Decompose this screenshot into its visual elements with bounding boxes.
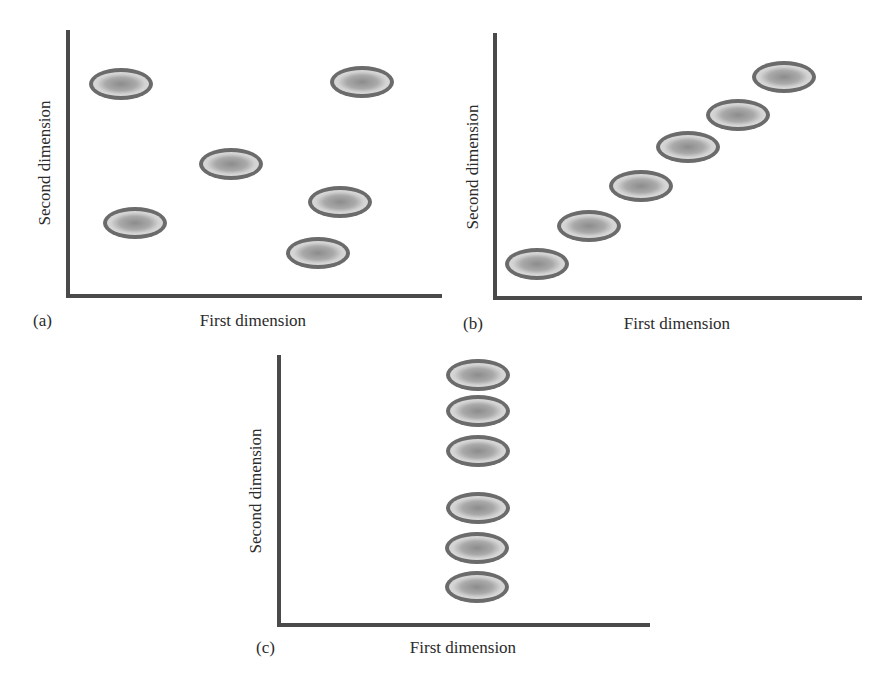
panel-c: (c) First dimension Second dimension: [246, 357, 648, 657]
panel-a-points: [89, 66, 394, 269]
cell-marker: [706, 99, 770, 131]
cell-marker: [445, 532, 509, 564]
panel-a-ylabel: Second dimension: [35, 100, 54, 226]
cell-marker: [330, 66, 394, 98]
panel-c-label: (c): [256, 638, 275, 657]
panel-b-xlabel: First dimension: [624, 314, 731, 333]
panel-b: (b) First dimension Second dimension: [463, 35, 860, 333]
cell-marker: [609, 170, 673, 202]
panel-c-xlabel: First dimension: [410, 638, 517, 657]
cell-marker: [505, 248, 569, 280]
cell-marker: [446, 359, 510, 391]
cell-marker: [752, 61, 816, 93]
panel-c-points: [445, 359, 510, 603]
cell-marker: [446, 435, 510, 467]
panel-c-ylabel: Second dimension: [246, 428, 265, 554]
figure-canvas: (a) First dimension Second dimension (b)…: [0, 0, 881, 682]
panel-a-xlabel: First dimension: [200, 311, 307, 330]
panel-b-ylabel: Second dimension: [463, 104, 482, 230]
panel-b-points: [505, 61, 816, 280]
cell-marker: [308, 186, 372, 218]
cell-marker: [286, 237, 350, 269]
cell-marker: [557, 210, 621, 242]
cell-marker: [446, 395, 510, 427]
cell-marker: [446, 492, 510, 524]
cell-marker: [445, 571, 509, 603]
panel-a-label: (a): [33, 311, 52, 330]
cell-marker: [656, 131, 720, 163]
panel-a: (a) First dimension Second dimension: [33, 32, 440, 330]
cell-marker: [199, 148, 263, 180]
cell-marker: [103, 207, 167, 239]
panel-b-label: (b): [463, 314, 483, 333]
cell-marker: [89, 68, 153, 100]
